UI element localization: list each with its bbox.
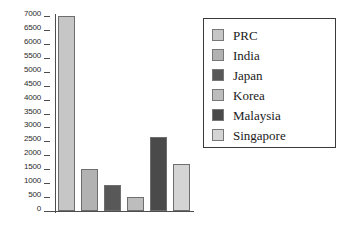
y-tick-mark (44, 72, 50, 73)
y-tick-mark (44, 30, 50, 31)
legend-swatch-icon (212, 29, 224, 41)
y-tick-label: 1000 (24, 177, 41, 185)
legend-item-india[interactable]: India (212, 45, 335, 65)
legend-item-prc[interactable]: PRC (212, 25, 335, 45)
legend-swatch-icon (212, 89, 224, 101)
y-tick-label: 2000 (24, 149, 41, 157)
bar-chart-figure: 0500100015002000250030003500400045005000… (0, 0, 349, 233)
legend-label: Malaysia (233, 109, 281, 122)
bar-india (81, 169, 98, 211)
y-tick-mark (44, 169, 50, 170)
chart-legend: PRCIndiaJapanKoreaMalaysiaSingapore (203, 18, 336, 148)
bar-singapore (173, 164, 190, 211)
y-tick-label: 3500 (24, 108, 41, 116)
x-axis-line (44, 211, 194, 212)
legend-swatch-icon (212, 129, 224, 141)
legend-label: Japan (233, 69, 263, 82)
bar-korea (127, 197, 144, 211)
y-tick-label: 5000 (24, 66, 41, 74)
y-tick-mark (44, 114, 50, 115)
legend-swatch-icon (212, 49, 224, 61)
y-tick-label: 3000 (24, 121, 41, 129)
y-tick-mark (44, 58, 50, 59)
legend-swatch-icon (212, 69, 224, 81)
y-tick-mark (44, 86, 50, 87)
y-tick-mark (44, 197, 50, 198)
y-tick-label: 4000 (24, 94, 41, 102)
y-tick-label: 6000 (24, 38, 41, 46)
bar-malaysia (150, 137, 167, 211)
y-tick-mark (44, 211, 50, 212)
y-tick-mark (44, 141, 50, 142)
y-tick-label: 5500 (24, 52, 41, 60)
y-tick-label: 6500 (24, 24, 41, 32)
legend-item-singapore[interactable]: Singapore (212, 125, 335, 145)
y-tick-mark (44, 16, 50, 17)
y-tick-mark (44, 44, 50, 45)
bar-japan (104, 185, 121, 211)
y-tick-mark (44, 100, 50, 101)
y-tick-label: 4500 (24, 80, 41, 88)
legend-label: Singapore (233, 129, 286, 142)
y-tick-mark (44, 127, 50, 128)
bar-series (55, 16, 193, 211)
legend-item-japan[interactable]: Japan (212, 65, 335, 85)
bar-prc (58, 16, 75, 211)
legend-label: PRC (233, 29, 258, 42)
y-tick-label: 0 (37, 205, 41, 213)
legend-swatch-icon (212, 109, 224, 121)
legend-item-korea[interactable]: Korea (212, 85, 335, 105)
y-tick-mark (44, 155, 50, 156)
y-tick-mark (44, 183, 50, 184)
y-tick-label: 1500 (24, 163, 41, 171)
y-tick-label: 7000 (24, 10, 41, 18)
y-tick-label: 500 (28, 191, 41, 199)
legend-item-malaysia[interactable]: Malaysia (212, 105, 335, 125)
legend-label: India (233, 49, 260, 62)
y-tick-label: 2500 (24, 135, 41, 143)
legend-label: Korea (233, 89, 265, 102)
